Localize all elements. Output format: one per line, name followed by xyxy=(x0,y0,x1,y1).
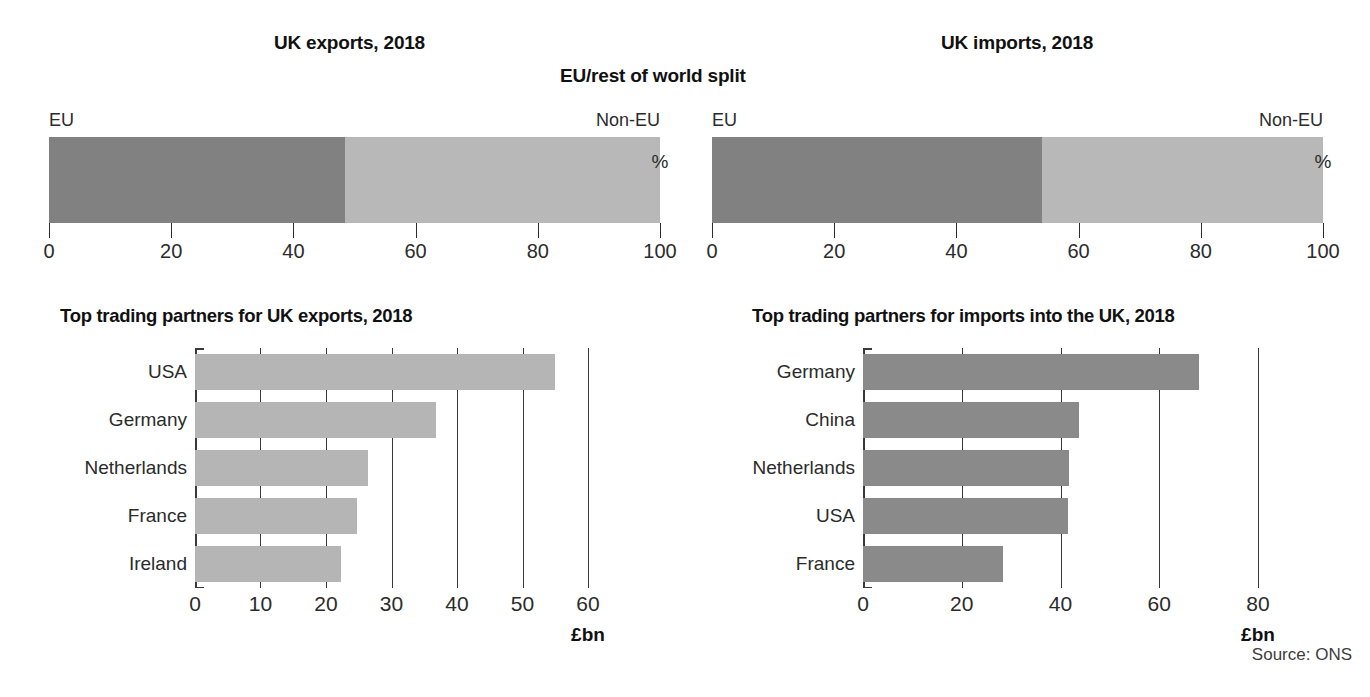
bar-row: Germany xyxy=(863,354,1258,390)
axis-tick xyxy=(416,223,417,238)
axis-tick-label: 0 xyxy=(706,240,717,263)
bar xyxy=(863,450,1069,486)
source-note: Source: ONS xyxy=(1252,645,1352,665)
exports-eu-label: EU xyxy=(49,110,74,131)
bar-row: Germany xyxy=(195,402,588,438)
exports-unit-label: £bn xyxy=(571,624,605,646)
axis-tick-label: 20 xyxy=(950,592,973,616)
axis-tick-label: 40 xyxy=(282,240,304,263)
axis-tick-label: 100 xyxy=(1306,240,1339,263)
bar xyxy=(195,450,368,486)
axis-tick xyxy=(538,223,539,238)
axis-tick xyxy=(293,223,294,238)
exports-stacked-bar xyxy=(49,137,660,223)
imports-stacked-bar xyxy=(712,137,1323,223)
axis-tick-label: 0 xyxy=(857,592,869,616)
axis-tick-label: 60 xyxy=(1148,592,1171,616)
imports-non-eu-label: Non-EU xyxy=(1259,110,1323,131)
imports-unit-label: £bn xyxy=(1241,624,1275,646)
category-label: USA xyxy=(148,354,187,390)
axis-tick xyxy=(1323,223,1324,238)
bar xyxy=(863,498,1068,534)
axis-tick-label: 0 xyxy=(189,592,201,616)
imports-partners-title: Top trading partners for imports into th… xyxy=(752,305,1175,327)
imports-partners-axis: £bn 020406080 xyxy=(863,588,1258,638)
bar-row: China xyxy=(863,402,1258,438)
bar xyxy=(195,546,341,582)
axis-tick xyxy=(1079,223,1080,238)
axis-tick xyxy=(834,223,835,238)
exports-panel-title: UK exports, 2018 xyxy=(274,32,425,54)
axis-tick-label: 20 xyxy=(314,592,337,616)
exports-partners-title: Top trading partners for UK exports, 201… xyxy=(60,305,412,327)
axis-tick xyxy=(956,223,957,238)
exports-partners-chart: USAGermanyNetherlandsFranceIreland £bn 0… xyxy=(40,340,660,640)
split-subtitle: EU/rest of world split xyxy=(560,65,746,87)
exports-axis-cap-top xyxy=(195,348,204,350)
bar xyxy=(863,402,1079,438)
imports-split-axis: 020406080100 xyxy=(712,223,1323,269)
gridline xyxy=(588,348,589,588)
bar xyxy=(863,546,1003,582)
axis-tick xyxy=(1201,223,1202,238)
axis-tick-label: 20 xyxy=(823,240,845,263)
axis-tick-label: 10 xyxy=(249,592,272,616)
category-label: Germany xyxy=(777,354,855,390)
axis-tick-label: 0 xyxy=(43,240,54,263)
axis-tick-label: 100 xyxy=(643,240,676,263)
axis-tick-label: 60 xyxy=(404,240,426,263)
imports-eu-label: EU xyxy=(712,110,737,131)
imports-plot-area: GermanyChinaNetherlandsUSAFrance xyxy=(863,348,1258,588)
axis-tick-label: 40 xyxy=(945,240,967,263)
bar xyxy=(195,402,436,438)
exports-plot-area: USAGermanyNetherlandsFranceIreland xyxy=(195,348,588,588)
imports-panel-title: UK imports, 2018 xyxy=(941,32,1093,54)
category-label: Germany xyxy=(109,402,187,438)
exports-non-eu-segment xyxy=(345,137,660,223)
category-label: USA xyxy=(816,498,855,534)
axis-tick-label: 80 xyxy=(1190,240,1212,263)
bar-row: USA xyxy=(195,354,588,390)
axis-tick-label: 30 xyxy=(380,592,403,616)
category-label: Netherlands xyxy=(753,450,855,486)
axis-tick xyxy=(49,223,50,238)
imports-percent-unit: % xyxy=(1315,151,1332,173)
axis-tick-label: 40 xyxy=(1049,592,1072,616)
category-label: Ireland xyxy=(129,546,187,582)
bar-row: Netherlands xyxy=(863,450,1258,486)
axis-tick xyxy=(660,223,661,238)
axis-tick-label: 40 xyxy=(445,592,468,616)
category-label: Netherlands xyxy=(85,450,187,486)
bar-row: USA xyxy=(863,498,1258,534)
imports-partners-chart: GermanyChinaNetherlandsUSAFrance £bn 020… xyxy=(720,340,1340,640)
axis-tick-label: 80 xyxy=(527,240,549,263)
bar xyxy=(195,354,555,390)
exports-partners-axis: £bn 0102030405060 xyxy=(195,588,588,638)
category-label: France xyxy=(796,546,855,582)
bar xyxy=(195,498,357,534)
axis-tick xyxy=(171,223,172,238)
bar-row: Ireland xyxy=(195,546,588,582)
bar-row: France xyxy=(863,546,1258,582)
exports-eu-segment xyxy=(49,137,345,223)
imports-non-eu-segment xyxy=(1042,137,1323,223)
axis-tick-label: 50 xyxy=(511,592,534,616)
trade-figure: UK exports, 2018 UK imports, 2018 EU/res… xyxy=(0,0,1370,697)
axis-tick-label: 20 xyxy=(160,240,182,263)
bar xyxy=(863,354,1199,390)
exports-non-eu-label: Non-EU xyxy=(596,110,660,131)
exports-percent-unit: % xyxy=(652,151,669,173)
category-label: France xyxy=(128,498,187,534)
bar-row: France xyxy=(195,498,588,534)
imports-axis-cap-top xyxy=(863,348,872,350)
axis-tick-label: 60 xyxy=(1067,240,1089,263)
imports-eu-segment xyxy=(712,137,1042,223)
category-label: China xyxy=(805,402,855,438)
axis-tick-label: 80 xyxy=(1246,592,1269,616)
exports-split-axis: 020406080100 xyxy=(49,223,660,269)
axis-tick xyxy=(712,223,713,238)
axis-tick-label: 60 xyxy=(576,592,599,616)
bar-row: Netherlands xyxy=(195,450,588,486)
gridline xyxy=(1258,348,1259,588)
